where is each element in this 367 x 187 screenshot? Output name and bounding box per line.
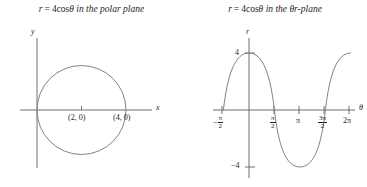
fraction-denominator: 2 (218, 123, 224, 130)
x-tick-label-3pi-over-2: 3π2 (318, 115, 327, 130)
x-tick-label-neg-pi-over-2: −π2 (213, 115, 223, 130)
polar-plane-svg (0, 0, 183, 187)
r-axis-label: r (246, 27, 249, 36)
x-tick-label-2pi: 2π (343, 116, 351, 125)
figure-container: r=4cosθ in the polar plane y x (2, 0) (4… (0, 0, 367, 187)
y-axis-label: y (31, 27, 35, 36)
theta-r-plane-svg (183, 0, 367, 187)
fraction-denominator: 2 (270, 123, 276, 130)
polar-plane-panel: r=4cosθ in the polar plane y x (2, 0) (4… (0, 0, 183, 187)
x-tick-label-pi-over-2: π2 (270, 115, 276, 130)
fraction-pi-over-2: π2 (270, 115, 276, 130)
y-tick-label-4: 4 (235, 48, 239, 57)
fraction-denominator: 2 (318, 123, 327, 130)
theta-axis-label: θ (359, 103, 363, 112)
fraction-3pi-over-2: 3π2 (318, 115, 327, 130)
point-label-4-0: (4, 0) (113, 113, 130, 122)
theta-r-plane-panel: r=4cosθ in the θr-plane r θ 4 −4 (183, 0, 367, 187)
x-axis-label: x (156, 103, 160, 112)
fraction-pi-over-2: π2 (218, 115, 224, 130)
y-tick-label-neg-4: −4 (231, 161, 240, 170)
point-label-2-0: (2, 0) (68, 113, 85, 122)
x-tick-label-pi: π (296, 116, 300, 125)
